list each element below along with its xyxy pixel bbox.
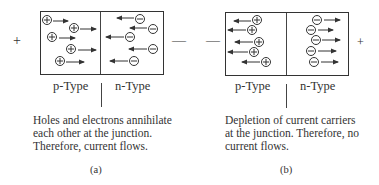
- hole-icon: [242, 58, 271, 67]
- p-type-label: p-Type: [53, 79, 88, 93]
- hole-icon: [235, 38, 264, 47]
- junction-pointer-line: [101, 83, 102, 107]
- junction-pointer-line: [286, 84, 287, 108]
- electron-icon: [129, 45, 158, 54]
- n-type-label: n-Type: [115, 79, 150, 93]
- caption-line: Depletion of current carriers: [225, 114, 359, 127]
- caption-line: Holes and electrons annihilate: [33, 114, 172, 127]
- hole-icon: [228, 26, 257, 35]
- panel-label: (a): [90, 164, 102, 176]
- n-type-label: n-Type: [300, 79, 335, 93]
- electron-icon: [312, 36, 341, 45]
- hole-icon: [70, 24, 97, 33]
- panel-label: (b): [280, 164, 292, 176]
- electron-icon: [307, 26, 334, 35]
- hole-icon: [67, 45, 97, 54]
- hole-icon: [228, 48, 259, 57]
- p-type-label: p-Type: [235, 79, 270, 93]
- carrier-diagram: [0, 0, 190, 80]
- caption-line: at the junction. Therefore, no: [225, 127, 359, 140]
- electron-icon: [117, 15, 145, 24]
- caption-line: Therefore, current flows.: [33, 140, 172, 153]
- caption-line: current flows.: [225, 140, 359, 153]
- electron-icon: [110, 57, 139, 66]
- electron-icon: [310, 58, 339, 67]
- carrier-diagram: [190, 0, 379, 80]
- electron-icon: [106, 33, 135, 42]
- caption-line: each other at the junction.: [33, 127, 172, 140]
- panel-reverse-bias: — +: [190, 0, 379, 185]
- caption: Holes and electrons annihilate each othe…: [33, 114, 172, 153]
- electron-icon: [313, 16, 341, 25]
- hole-icon: [56, 57, 85, 66]
- hole-icon: [48, 33, 76, 42]
- electron-icon: [307, 47, 337, 56]
- panel-forward-bias: + —: [0, 0, 190, 185]
- hole-icon: [234, 16, 262, 25]
- hole-icon: [43, 16, 69, 25]
- electron-icon: [130, 25, 158, 34]
- caption: Depletion of current carriers at the jun…: [225, 114, 359, 153]
